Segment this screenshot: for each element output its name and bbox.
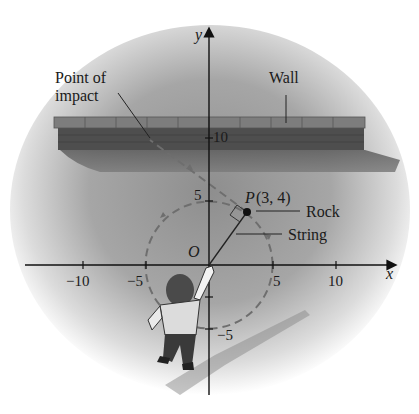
impact-label-line2: impact <box>55 88 99 104</box>
x-tick-10: 10 <box>328 274 343 289</box>
impact-label-line1: Point of <box>55 70 106 86</box>
string-label: String <box>288 227 327 243</box>
origin-label: O <box>188 244 200 260</box>
point-coords: (3, 4) <box>256 190 291 206</box>
wall-shadow <box>60 150 400 172</box>
rock <box>243 208 251 216</box>
y-axis-label: y <box>195 27 202 43</box>
y-tick-5: 5 <box>194 188 202 203</box>
wall-label: Wall <box>269 70 299 86</box>
x-tick-neg5: −5 <box>127 274 143 289</box>
x-tick-5: 5 <box>273 274 281 289</box>
rock-sling-diagram: y x Point of impact Wall 10 5 −5 P (3, 4… <box>0 0 419 414</box>
y-tick-neg5: −5 <box>217 328 233 343</box>
diagram-graphics <box>0 0 419 414</box>
rock-label: Rock <box>306 204 340 220</box>
y-tick-10: 10 <box>213 130 228 145</box>
point-name: P <box>245 190 255 206</box>
x-axis-label: x <box>386 266 393 282</box>
x-tick-neg10: −10 <box>66 274 89 289</box>
wall-front <box>58 128 364 150</box>
